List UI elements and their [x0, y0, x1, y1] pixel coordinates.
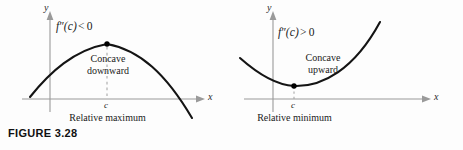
condition-argument: (c)	[286, 26, 299, 38]
figure-caption: FIGURE 3.28	[8, 127, 77, 139]
concavity-description: Concave downward	[79, 53, 137, 76]
condition-value: 0	[86, 20, 94, 32]
concavity-description-line2: downward	[79, 65, 137, 77]
concavity-description: Concave upward	[294, 52, 352, 75]
extremum-caption: Relative maximum	[55, 112, 160, 124]
y-axis	[47, 11, 54, 112]
critical-point-label: c	[104, 100, 108, 110]
y-axis-label: y	[267, 2, 271, 13]
x-axis-label: x	[208, 91, 212, 102]
x-axis-label: x	[434, 91, 438, 102]
condition-relation: <	[77, 20, 86, 32]
panel-concave-downward: y x f″(c)<0 Concave downward c Relative …	[0, 0, 232, 135]
concavity-description-line1: Concave	[294, 52, 352, 64]
condition-relation: >	[299, 26, 308, 38]
second-derivative-condition: f″(c)>0	[278, 26, 316, 38]
y-axis	[270, 11, 277, 112]
condition-value: 0	[308, 26, 316, 38]
x-axis	[244, 96, 431, 103]
relative-minimum-point	[291, 83, 296, 88]
concavity-description-line1: Concave	[79, 53, 137, 65]
concavity-description-line2: upward	[294, 64, 352, 76]
second-derivative-condition: f″(c)<0	[56, 20, 94, 32]
relative-maximum-point	[104, 41, 109, 46]
y-axis-label: y	[44, 2, 48, 13]
condition-argument: (c)	[64, 20, 77, 32]
extremum-caption: Relative minimum	[242, 112, 347, 124]
figure-container: y x f″(c)<0 Concave downward c Relative …	[0, 0, 463, 150]
panel-concave-upward: y x f″(c)>0 Concave upward c Relative mi…	[232, 0, 463, 135]
critical-point-label: c	[291, 100, 295, 110]
